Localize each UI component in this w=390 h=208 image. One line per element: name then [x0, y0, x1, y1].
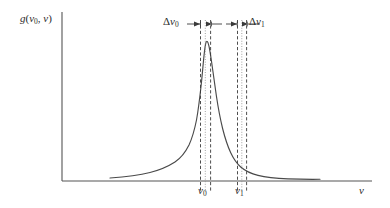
lineshape-figure: g(ν0, ν) ν ν0 ν1 Δν0 Δν1 — [0, 0, 390, 208]
annotation-delta-nu-1: Δν1 — [249, 15, 265, 29]
y-label-close: ) — [48, 12, 52, 24]
lineshape-curve — [110, 41, 320, 179]
y-axis-label: g(ν0, ν) — [20, 12, 52, 26]
x-axis-label: ν — [359, 184, 364, 196]
lineshape-curve-group — [110, 41, 320, 179]
x-tick-label-nu0: ν0 — [198, 184, 207, 198]
x-tick-label-nu1: ν1 — [235, 184, 244, 198]
dnu0-sub: 0 — [175, 20, 179, 29]
tick-nu1-sub: 1 — [240, 189, 244, 198]
tick-nu0-sub: 0 — [203, 189, 207, 198]
delta-nu-1-band — [238, 20, 247, 192]
annotation-delta-nu-0: Δν0 — [163, 15, 179, 29]
plot-canvas — [0, 0, 390, 208]
dnu1-sub: 1 — [261, 20, 265, 29]
